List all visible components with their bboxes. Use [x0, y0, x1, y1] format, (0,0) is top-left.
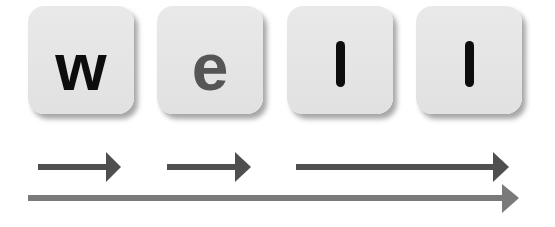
arrow-ll-icon	[296, 152, 509, 182]
arrows-layer	[0, 0, 555, 227]
arrow-e-icon	[167, 152, 251, 182]
arrow-w-icon	[38, 152, 121, 182]
arrow-word-icon	[28, 184, 519, 213]
